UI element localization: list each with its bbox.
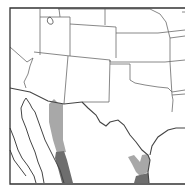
range-map [0,0,185,193]
map-background [0,0,185,193]
